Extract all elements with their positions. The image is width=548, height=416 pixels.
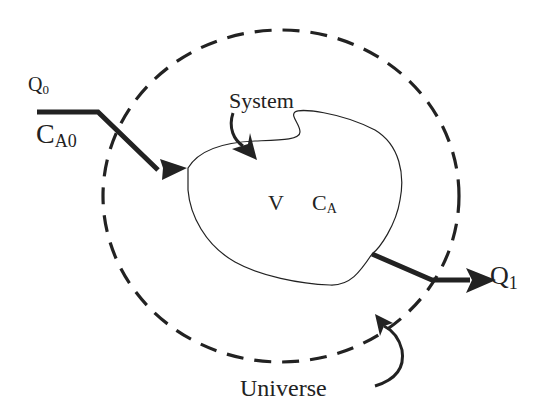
system-label: System <box>229 88 294 113</box>
system-concentration-label: CA <box>312 190 338 216</box>
inlet-flow-label: Q0 <box>28 73 49 97</box>
outlet-flow-label: Q1 <box>490 261 518 293</box>
outlet-arrow <box>372 254 496 293</box>
inlet-concentration-label: CA0 <box>36 118 77 151</box>
universe-label: Universe <box>240 375 327 401</box>
system-boundary <box>188 111 402 285</box>
volume-label: V <box>268 190 284 215</box>
system-pointer-arrow <box>231 113 257 160</box>
system-universe-diagram: Q0 CA0 System V CA Q1 Universe <box>0 0 548 416</box>
universe-pointer-arrow <box>375 314 403 386</box>
